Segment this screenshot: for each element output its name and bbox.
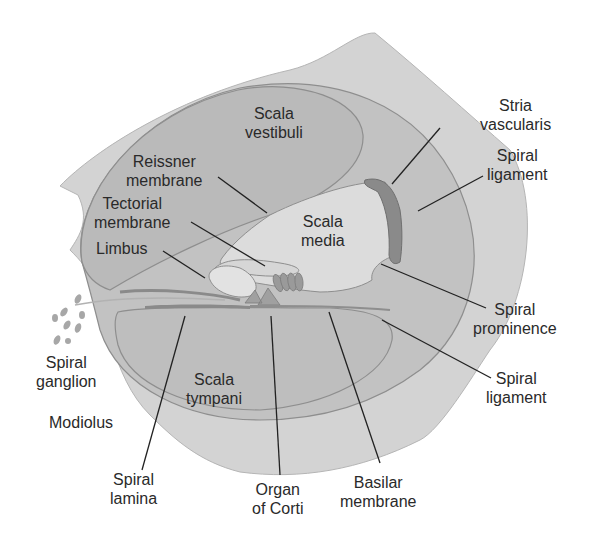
label-limbus: Limbus <box>96 239 148 258</box>
label-spiral-ligament-upper: Spiral ligament <box>487 146 547 184</box>
label-spiral-ganglion: Spiral ganglion <box>36 353 97 391</box>
label-tectorial-membrane: Tectorial membrane <box>94 194 170 232</box>
label-spiral-lamina: Spiral lamina <box>110 470 157 508</box>
cochlea-cross-section-diagram <box>0 0 594 547</box>
label-scala-tympani: Scala tympani <box>186 370 242 408</box>
label-stria-vascularis: Stria vascularis <box>480 96 551 134</box>
label-spiral-prominence: Spiral prominence <box>473 300 557 338</box>
label-spiral-ligament-lower: Spiral ligament <box>486 369 546 407</box>
label-reissner-membrane: Reissner membrane <box>126 152 202 190</box>
label-scala-vestibuli: Scala vestibuli <box>245 104 303 142</box>
label-scala-media: Scala media <box>301 212 345 250</box>
label-organ-of-corti: Organ of Corti <box>252 480 304 518</box>
spiral-ganglion-cells <box>52 293 85 346</box>
label-basilar-membrane: Basilar membrane <box>340 473 416 511</box>
label-modiolus: Modiolus <box>49 413 113 432</box>
